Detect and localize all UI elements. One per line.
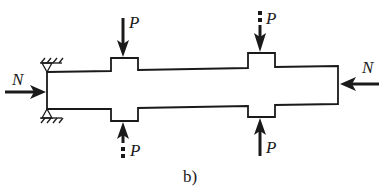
figure-caption: b) xyxy=(183,168,197,185)
force-bottom-right-arrow-icon xyxy=(254,118,266,156)
axial-force-right-arrow-icon xyxy=(340,77,379,91)
label-axial-left: N xyxy=(12,71,23,88)
force-bottom-left-arrow-icon xyxy=(117,122,129,158)
force-top-left-arrow-icon xyxy=(117,18,129,57)
label-axial-right: N xyxy=(362,59,373,76)
label-force-top-left: P xyxy=(129,14,139,31)
force-top-right-arrow-icon xyxy=(254,11,266,52)
label-force-top-right: P xyxy=(266,10,276,27)
label-force-bottom-left: P xyxy=(130,142,140,159)
label-force-bottom-right: P xyxy=(266,139,276,156)
support-top-icon xyxy=(40,58,63,72)
diagram-drawing xyxy=(0,0,384,193)
shaft-outline xyxy=(47,53,338,121)
support-bottom-icon xyxy=(40,109,63,123)
shaft-diagram: N N P P P P b) xyxy=(0,0,384,193)
